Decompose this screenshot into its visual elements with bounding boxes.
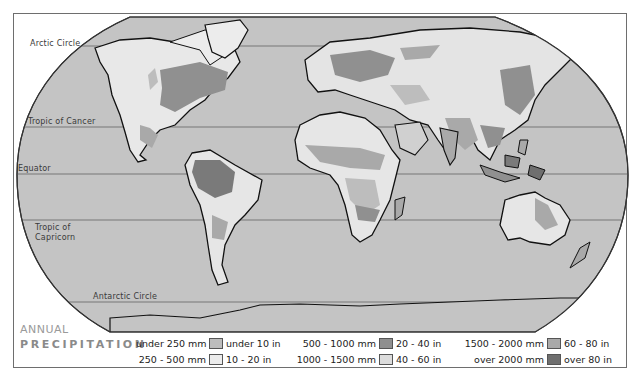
antarctic-circle-label: Antarctic Circle [93,292,157,301]
legend-item: 1500 - 2000 mm 60 - 80 in [460,337,609,350]
tropic-of-capricorn-label-line2: Capricorn [35,233,75,242]
swatch-under-250 [209,338,223,349]
swatch-500-1000 [379,338,393,349]
swatch-1500-2000 [547,338,561,349]
legend-item: 500 - 1000 mm 20 - 40 in [296,337,441,350]
legend-item: 1000 - 1500 mm 40 - 60 in [296,353,441,366]
legend-item: under 250 mm under 10 in [136,337,281,350]
legend-title-precipitation: PRECIPITATION [20,338,147,351]
legend-item: over 2000 mm over 80 in [460,353,612,366]
equator-label: Equator [18,164,51,173]
tropic-of-cancer-label: Tropic of Cancer [28,117,96,126]
tropic-of-capricorn-label-line1: Tropic of [35,223,70,232]
swatch-over-2000 [547,354,561,365]
legend-title-annual: ANNUAL [20,323,69,336]
legend-item: 250 - 500 mm 10 - 20 in [136,353,271,366]
arctic-circle-label: Arctic Circle [30,39,80,48]
swatch-1000-1500 [379,354,393,365]
swatch-250-500 [209,354,223,365]
world-map [0,0,637,385]
